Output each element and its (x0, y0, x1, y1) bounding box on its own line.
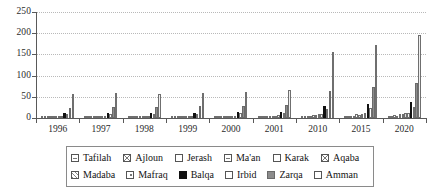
x-axis-ticks: 199619971998199920002001201020152020 (36, 119, 427, 139)
x-tick-label: 2010 (308, 125, 327, 135)
x-tick-mark (253, 119, 254, 123)
bar-group (253, 12, 296, 118)
x-tick-mark (426, 119, 427, 123)
legend-label: Aqaba (333, 153, 359, 163)
y-tick-label: 50 (21, 92, 31, 102)
legend: TafilahAjlounJerashMa'anKarakAqaba Madab… (66, 146, 374, 187)
x-tick-label: 1997 (92, 125, 111, 135)
legend-swatch-icon (123, 154, 131, 162)
legend-item-jerash[interactable]: Jerash (175, 153, 212, 163)
plot-area: 050100150200250 (36, 12, 426, 118)
x-tick-mark (209, 119, 210, 123)
legend-swatch-icon (321, 154, 329, 162)
legend-item-balqa[interactable]: Balqa (179, 170, 214, 180)
bar (202, 93, 204, 118)
bar (72, 94, 74, 118)
bar (245, 92, 247, 118)
legend-swatch-icon (267, 171, 275, 179)
y-tick-label: 200 (16, 28, 31, 38)
legend-swatch-icon (179, 171, 187, 179)
x-tick-mark (339, 119, 340, 123)
bar (115, 93, 117, 118)
bar (158, 94, 160, 118)
legend-label: Ma'an (236, 153, 261, 163)
y-tick-label: 150 (16, 50, 31, 60)
legend-item-amman[interactable]: Amman (314, 170, 358, 180)
x-tick-label: 2000 (222, 125, 241, 135)
y-tick-label: 100 (16, 71, 31, 81)
legend-swatch-icon (314, 171, 322, 179)
legend-item-ajloun[interactable]: Ajloun (123, 153, 163, 163)
legend-item-zarqa[interactable]: Zarqa (267, 170, 302, 180)
bar-group (36, 12, 79, 118)
legend-label: Tafilah (83, 153, 111, 163)
bar-group (209, 12, 252, 118)
legend-swatch-icon (224, 154, 232, 162)
legend-swatch-icon (175, 154, 183, 162)
legend-swatch-icon (71, 154, 79, 162)
bar-group (166, 12, 209, 118)
bar-group (383, 12, 426, 118)
legend-item-tafilah[interactable]: Tafilah (71, 153, 111, 163)
y-axis-line (36, 12, 37, 119)
bar (375, 45, 377, 118)
x-tick-label: 1996 (48, 125, 67, 135)
bar-group (339, 12, 382, 118)
legend-row-1: TafilahAjlounJerashMa'anKarakAqaba (71, 149, 369, 166)
chart-figure: 050100150200250 199619971998199920002001… (0, 0, 433, 191)
x-tick-mark (79, 119, 80, 123)
legend-label: Mafraq (138, 170, 167, 180)
legend-item-aqaba[interactable]: Aqaba (321, 153, 359, 163)
legend-swatch-icon (225, 171, 233, 179)
legend-swatch-icon (126, 171, 134, 179)
legend-swatch-icon (273, 154, 281, 162)
x-tick-mark (36, 119, 37, 123)
bar-group (123, 12, 166, 118)
legend-item-mafraq[interactable]: Mafraq (126, 170, 167, 180)
x-tick-label: 1998 (135, 125, 154, 135)
legend-item-madaba[interactable]: Madaba (71, 170, 115, 180)
legend-swatch-icon (71, 171, 79, 179)
bar (418, 35, 420, 118)
legend-label: Jerash (187, 153, 212, 163)
bar (332, 52, 334, 118)
x-tick-mark (296, 119, 297, 123)
x-tick-label: 2001 (265, 125, 284, 135)
legend-label: Madaba (83, 170, 115, 180)
x-tick-mark (383, 119, 384, 123)
bar-group (296, 12, 339, 118)
x-tick-mark (166, 119, 167, 123)
legend-label: Zarqa (279, 170, 302, 180)
bar-group (79, 12, 122, 118)
x-tick-label: 2020 (395, 125, 414, 135)
x-tick-label: 2015 (352, 125, 371, 135)
legend-item-karak[interactable]: Karak (273, 153, 309, 163)
y-tick-label: 250 (16, 7, 31, 17)
legend-label: Amman (326, 170, 358, 180)
legend-item-irbid[interactable]: Irbid (225, 170, 256, 180)
legend-label: Balqa (191, 170, 214, 180)
y-tick-label: 0 (26, 113, 31, 123)
x-tick-mark (123, 119, 124, 123)
legend-row-2: MadabaMafraqBalqaIrbidZarqaAmman (71, 166, 369, 183)
legend-item-maan[interactable]: Ma'an (224, 153, 261, 163)
x-tick-label: 1999 (178, 125, 197, 135)
legend-label: Ajloun (135, 153, 163, 163)
legend-label: Irbid (237, 170, 256, 180)
legend-label: Karak (285, 153, 309, 163)
bar (288, 90, 290, 118)
